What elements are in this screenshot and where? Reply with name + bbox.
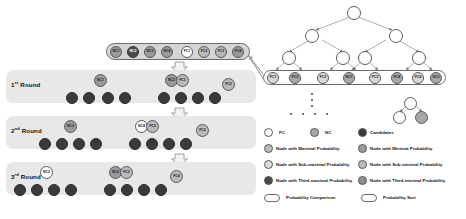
ellipsis-dot	[326, 113, 328, 115]
tree-mini-parent[interactable]	[404, 97, 417, 110]
round-1-label: 1st Round	[11, 80, 40, 88]
legend-item-candidates: Candidates	[358, 128, 394, 137]
tree-leaf-6[interactable]: FC4	[412, 72, 424, 84]
round2-candidate-0[interactable]	[39, 138, 51, 150]
round1-center-node-b[interactable]: FC1	[176, 74, 189, 87]
tree-mini-child-left[interactable]	[393, 111, 406, 124]
round3-candidate-1[interactable]	[31, 184, 43, 196]
tree-leaf-4[interactable]: FC3	[369, 72, 381, 84]
round2-candidate-3[interactable]	[90, 138, 102, 150]
legend-item-fc: FC	[264, 128, 285, 137]
round3-center-node-b[interactable]: FC2	[120, 166, 133, 179]
ellipsis-dot	[302, 113, 304, 115]
legend-swatch-maximal-icon	[264, 144, 273, 153]
round-2-label: 2nd Round	[11, 126, 42, 134]
tree-leaf-5[interactable]: FC4	[391, 72, 403, 84]
bar-node-fc2[interactable]: FC2	[198, 46, 210, 58]
legend-label-candidates: Candidates	[370, 130, 394, 135]
legend-label-third-maximal: Node with Third-maximal Probability	[276, 178, 352, 183]
ellipsis-dot	[311, 99, 313, 101]
tree-mini-child-right[interactable]	[415, 111, 428, 124]
legend-item-maximal: Node with Maximal Probability	[264, 144, 339, 153]
round1-candidate-6[interactable]	[192, 92, 204, 104]
round3-candidate-0[interactable]	[14, 184, 26, 196]
round1-left-node[interactable]: NC1	[94, 74, 107, 87]
legend-label-third-minimal: Node with Third-minimal Probability	[370, 178, 445, 183]
legend-item-minimal: Node with Minimal Probability	[358, 144, 432, 153]
round2-candidate-7[interactable]	[180, 138, 192, 150]
round1-candidate-3[interactable]	[119, 92, 131, 104]
legend-item-probability-comparison: Probability Comparison	[264, 194, 336, 202]
tree-leaf-0[interactable]: FC1	[267, 72, 279, 84]
legend-label-sub-minimal: Node with Sub-minimal Probability	[370, 162, 442, 167]
round-3-label: 3rd Round	[11, 172, 41, 180]
legend-label-probability-sort: Probability Sort	[383, 195, 416, 200]
round1-candidate-1[interactable]	[83, 92, 95, 104]
legend-item-nc: NC	[310, 128, 331, 137]
bar-node-nc3[interactable]: NC3	[144, 46, 156, 58]
round2-candidate-1[interactable]	[56, 138, 68, 150]
bar-node-nc2[interactable]: NC2	[127, 46, 139, 58]
round2-center-node-b[interactable]: FC3	[146, 120, 159, 133]
tree-level2-node-0[interactable]	[305, 29, 319, 43]
round2-candidate-5[interactable]	[146, 138, 158, 150]
legend-swatch-sub-maximal-icon	[264, 160, 273, 169]
round3-candidate-3[interactable]	[65, 184, 77, 196]
legend-label-maximal: Node with Maximal Probability	[276, 146, 339, 151]
tree-level3-node-1[interactable]	[336, 51, 350, 65]
diagram-canvas: 1st Round 2nd Round 3rd Round NC1 NC2 NC…	[0, 0, 466, 219]
round3-candidate-6[interactable]	[138, 184, 150, 196]
bar-node-fc1[interactable]: FC1	[181, 46, 193, 58]
tree-level2-node-1[interactable]	[389, 29, 403, 43]
legend-swatch-minimal-icon	[358, 144, 367, 153]
tree-level3-node-0[interactable]	[282, 51, 296, 65]
ellipsis-dot	[311, 93, 313, 95]
legend-label-nc: NC	[325, 130, 331, 135]
legend-capsule-sort-icon	[361, 194, 377, 202]
legend-label-minimal: Node with Minimal Probability	[370, 146, 432, 151]
round2-candidate-6[interactable]	[163, 138, 175, 150]
round3-left-node[interactable]: NC2	[40, 166, 53, 179]
legend-capsule-comparison-icon	[264, 194, 280, 202]
round1-candidate-7[interactable]	[209, 92, 221, 104]
round2-candidate-2[interactable]	[73, 138, 85, 150]
round2-candidate-4[interactable]	[129, 138, 141, 150]
legend-swatch-third-maximal-icon	[264, 176, 273, 185]
bar-node-nc4[interactable]: NC4	[161, 46, 173, 58]
legend-item-probability-sort: Probability Sort	[361, 194, 416, 202]
legend-label-fc: FC	[279, 130, 285, 135]
ellipsis-dot	[290, 113, 292, 115]
tree-leaf-1[interactable]: FC2	[289, 72, 301, 84]
legend-label-sub-maximal: Node with Sub-maximal Probability	[276, 162, 349, 167]
round3-right-node[interactable]: FC4	[170, 170, 183, 183]
round1-candidate-5[interactable]	[175, 92, 187, 104]
round3-candidate-5[interactable]	[121, 184, 133, 196]
bar-node-nc1[interactable]: NC1	[110, 46, 122, 58]
tree-leaf-2[interactable]: FC2	[317, 72, 329, 84]
legend-swatch-nc-icon	[310, 128, 319, 137]
tree-level3-node-2[interactable]	[358, 51, 372, 65]
legend-swatch-third-minimal-icon	[358, 176, 367, 185]
tree-leaf-7[interactable]: NC2	[430, 72, 442, 84]
legend-item-third-minimal: Node with Third-minimal Probability	[358, 176, 445, 185]
legend: FC NC Candidates Node with Maximal Proba…	[258, 126, 464, 218]
bar-node-fc3[interactable]: FC3	[215, 46, 227, 58]
legend-swatch-fc-icon	[264, 128, 273, 137]
tree-leaf-3[interactable]: NC1	[343, 72, 355, 84]
tree-root-node[interactable]	[347, 6, 361, 20]
round2-left-node[interactable]: NC3	[64, 120, 77, 133]
bar-node-fc4[interactable]: FC4	[232, 46, 244, 58]
legend-swatch-sub-minimal-icon	[358, 160, 367, 169]
round1-candidate-0[interactable]	[66, 92, 78, 104]
tree-level3-node-3[interactable]	[412, 51, 426, 65]
round3-candidate-4[interactable]	[104, 184, 116, 196]
round1-right-node[interactable]: FC2	[222, 78, 235, 91]
legend-swatch-candidates-icon	[358, 128, 367, 137]
round2-right-node[interactable]: FC2	[196, 124, 209, 137]
round3-candidate-2[interactable]	[48, 184, 60, 196]
round1-candidate-4[interactable]	[158, 92, 170, 104]
round1-candidate-2[interactable]	[102, 92, 114, 104]
legend-item-third-maximal: Node with Third-maximal Probability	[264, 176, 352, 185]
ellipsis-dot	[311, 105, 313, 107]
round3-candidate-7[interactable]	[155, 184, 167, 196]
